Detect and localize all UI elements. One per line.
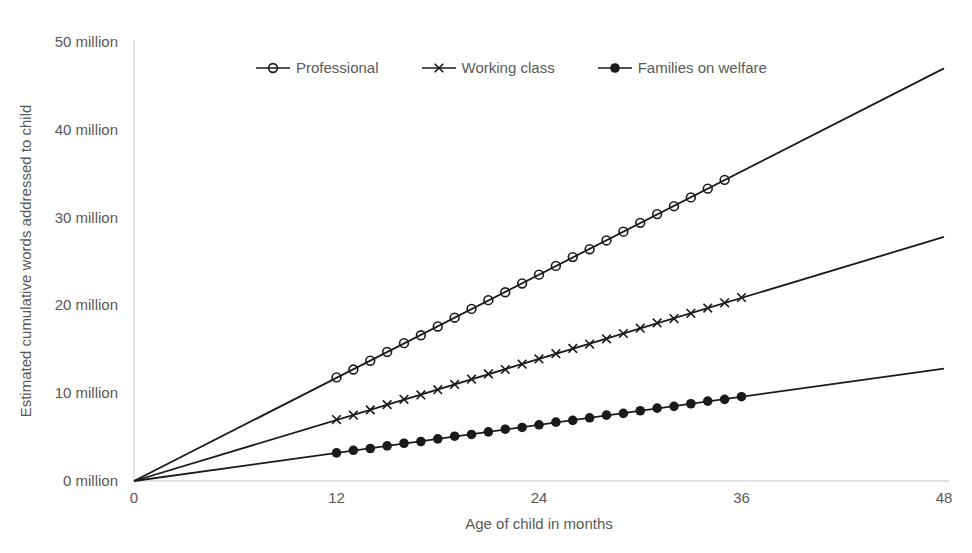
x-axis-tick-label: 12 bbox=[313, 489, 361, 506]
marker-filled-circle-families-on-welfare bbox=[703, 396, 713, 406]
plot-area bbox=[0, 0, 972, 553]
x-axis-tick-label: 48 bbox=[920, 489, 968, 506]
y-axis-tick-label: 0 million bbox=[26, 472, 118, 489]
y-axis-title: Estimated cumulative words addressed to … bbox=[17, 105, 34, 418]
marker-filled-circle-families-on-welfare bbox=[433, 434, 443, 444]
marker-filled-circle-families-on-welfare bbox=[332, 448, 342, 458]
marker-filled-circle-families-on-welfare bbox=[602, 410, 612, 420]
y-axis-tick-label: 20 million bbox=[26, 296, 118, 313]
marker-filled-circle-families-on-welfare bbox=[500, 424, 510, 434]
marker-filled-circle-families-on-welfare bbox=[737, 392, 747, 402]
marker-filled-circle-families-on-welfare bbox=[416, 437, 426, 447]
marker-filled-circle-families-on-welfare bbox=[585, 413, 595, 423]
y-axis-tick-label: 40 million bbox=[26, 121, 118, 138]
marker-filled-circle-families-on-welfare bbox=[619, 409, 629, 419]
marker-filled-circle-families-on-welfare bbox=[484, 427, 494, 437]
marker-filled-circle-families-on-welfare bbox=[551, 417, 561, 427]
legend-label-working-class: Working class bbox=[462, 59, 555, 76]
marker-filled-circle-families-on-welfare bbox=[467, 430, 477, 440]
marker-filled-circle-families-on-welfare bbox=[652, 403, 662, 413]
x-axis-tick-label: 24 bbox=[515, 489, 563, 506]
professional-open-circle-marker-icon bbox=[256, 61, 290, 75]
chart-legend: Professional Working class Families on w… bbox=[256, 59, 767, 76]
legend-item-families-on-welfare: Families on welfare bbox=[598, 59, 767, 76]
y-axis-tick-label: 50 million bbox=[26, 33, 118, 50]
marker-filled-circle-families-on-welfare bbox=[517, 423, 527, 433]
x-axis-tick-label: 0 bbox=[110, 489, 158, 506]
working-class-x-marker-icon bbox=[422, 61, 456, 75]
marker-filled-circle-families-on-welfare bbox=[382, 441, 392, 451]
y-axis-tick-label: 10 million bbox=[26, 384, 118, 401]
series-line-professional bbox=[134, 68, 944, 481]
line-chart-figure: Professional Working class Families on w… bbox=[0, 0, 972, 553]
marker-filled-circle-families-on-welfare bbox=[669, 402, 679, 412]
legend-label-professional: Professional bbox=[296, 59, 379, 76]
y-axis-tick-label: 30 million bbox=[26, 209, 118, 226]
marker-filled-circle-families-on-welfare bbox=[686, 399, 696, 409]
x-axis-tick-label: 36 bbox=[718, 489, 766, 506]
legend-label-families-on-welfare: Families on welfare bbox=[638, 59, 767, 76]
legend-item-professional: Professional bbox=[256, 59, 379, 76]
marker-filled-circle-families-on-welfare bbox=[635, 406, 645, 416]
x-axis-title: Age of child in months bbox=[134, 515, 944, 532]
marker-filled-circle-families-on-welfare bbox=[720, 395, 730, 405]
marker-filled-circle-families-on-welfare bbox=[349, 445, 359, 455]
families-on-welfare-filled-circle-marker-icon bbox=[598, 61, 632, 75]
legend-item-working-class: Working class bbox=[422, 59, 555, 76]
marker-filled-circle-families-on-welfare bbox=[450, 431, 460, 441]
marker-filled-circle-families-on-welfare bbox=[399, 438, 409, 448]
marker-filled-circle-families-on-welfare bbox=[534, 420, 544, 430]
marker-filled-circle-families-on-welfare bbox=[568, 416, 578, 426]
marker-filled-circle-families-on-welfare bbox=[365, 444, 375, 454]
